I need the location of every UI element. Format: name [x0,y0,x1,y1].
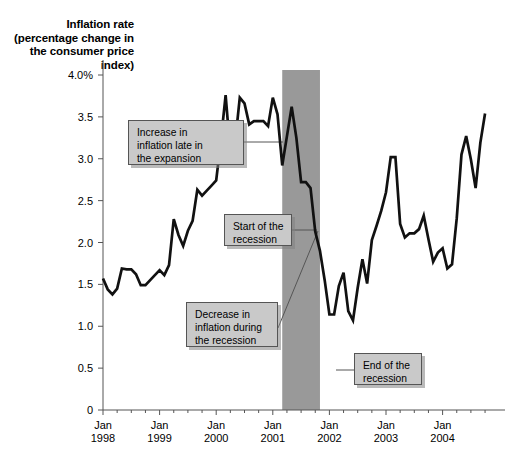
annotation-start-of-recession: Start of the recession [224,214,292,246]
x-tick-label-year: 2003 [374,432,398,444]
x-tick-label-year: 2000 [204,432,228,444]
x-tick-label-year: 1999 [147,432,171,444]
y-tick-label: 0 [87,404,93,416]
y-tick-label: 2.0 [78,237,93,249]
annotation-increase-in-expansion: Increase in inflation late in the expans… [128,120,244,165]
x-tick-label-year: 2001 [261,432,285,444]
x-tick-label-year: 2004 [430,432,454,444]
y-tick-label: 2.5 [78,195,93,207]
y-tick-label: 4.0% [68,69,93,81]
y-tick-label: 0.5 [78,362,93,374]
y-tick-label: 3.0 [78,153,93,165]
x-tick-labels-group: Jan1998Jan1999Jan2000Jan2001Jan2002Jan20… [91,410,485,444]
x-tick-label-month: Jan [151,419,169,431]
x-tick-label-year: 1998 [91,432,115,444]
x-tick-label-month: Jan [264,419,282,431]
y-tick-label: 3.5 [78,111,93,123]
chart-figure: Inflation rate (percentage change in the… [0,0,515,451]
x-tick-label-year: 2002 [317,432,341,444]
x-tick-label-month: Jan [94,419,112,431]
x-tick-label-month: Jan [321,419,339,431]
y-tick-label: 1.0 [78,320,93,332]
x-tick-label-month: Jan [434,419,452,431]
annotation-decrease-during-recession: Decrease in inflation during the recessi… [186,302,278,347]
y-tick-labels-group: 00.51.01.52.02.53.03.54.0% [68,69,103,416]
x-tick-label-month: Jan [377,419,395,431]
x-tick-label-month: Jan [207,419,225,431]
annotation-end-of-recession: End of the recession [354,353,422,385]
y-tick-label: 1.5 [78,278,93,290]
